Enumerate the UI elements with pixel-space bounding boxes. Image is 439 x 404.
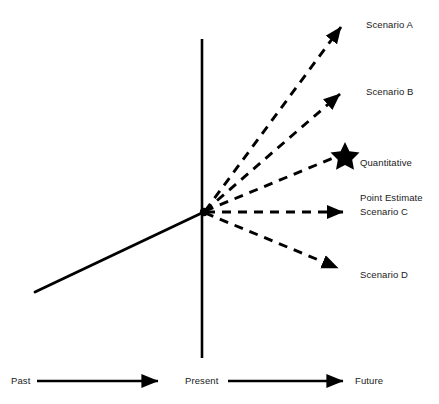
label-scenario-a: Scenario A: [366, 19, 413, 31]
past-trend-line: [35, 211, 206, 292]
label-future: Future: [355, 375, 383, 386]
branch-point-node: [200, 208, 208, 216]
projection-line-scenario-b: [205, 94, 340, 211]
label-scenario-d: Scenario D: [360, 269, 408, 281]
label-scenario-b: Scenario B: [366, 86, 413, 98]
projection-line-scenario-d: [205, 213, 338, 268]
projection-line-scenario-a: [205, 27, 341, 211]
scenario-funnel-diagram: Scenario A Scenario B Quantitative Point…: [0, 0, 439, 404]
point-estimate-star-icon: [331, 142, 360, 170]
label-point-estimate-line1: Quantitative: [360, 157, 423, 169]
label-scenario-c: Scenario C: [360, 206, 408, 218]
label-past: Past: [11, 375, 30, 386]
label-point-estimate-line2: Point Estimate: [360, 192, 423, 204]
label-present: Present: [185, 375, 218, 386]
